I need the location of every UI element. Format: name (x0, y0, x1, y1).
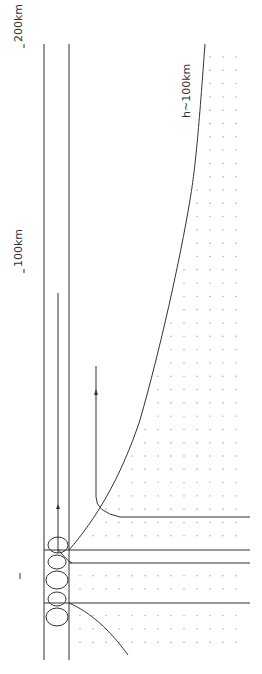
grid-dot (170, 429, 171, 430)
grid-dot (222, 509, 223, 510)
grid-dot (222, 522, 223, 523)
grid-dot (170, 415, 171, 416)
grid-dot (222, 282, 223, 283)
grid-dot (157, 588, 158, 589)
grid-dot (235, 163, 236, 164)
grid-dot (196, 282, 197, 283)
grid-dot (183, 509, 184, 510)
grid-dot (118, 522, 119, 523)
grid-dot (170, 615, 171, 616)
grid-dot (235, 336, 236, 337)
grid-dot (170, 535, 171, 536)
grid-dot (196, 362, 197, 363)
grid-dot (131, 482, 132, 483)
ellipse-4 (48, 592, 66, 606)
main-curve (69, 44, 205, 550)
grid-dot (131, 509, 132, 510)
grid-dot (157, 575, 158, 576)
grid-dot (209, 442, 210, 443)
scale-200km: 200km (12, 4, 25, 48)
grid-dot (196, 628, 197, 629)
grid-dot (196, 535, 197, 536)
grid-dot (105, 535, 106, 536)
grid-dot (131, 575, 132, 576)
grid-dot (144, 588, 145, 589)
grid-dot (209, 535, 210, 536)
grid-dot (183, 482, 184, 483)
grid-dot (170, 362, 171, 363)
grid-dot (196, 469, 197, 470)
grid-dot (209, 615, 210, 616)
grid-dot (209, 509, 210, 510)
grid-dot (209, 429, 210, 430)
grid-dot (144, 575, 145, 576)
grid-dot (157, 482, 158, 483)
grid-dot (222, 628, 223, 629)
grid-dot (79, 628, 80, 629)
grid-dot (222, 149, 223, 150)
grid-dot (235, 149, 236, 150)
grid-dot (222, 176, 223, 177)
grid-dot (235, 349, 236, 350)
grid-dot (235, 588, 236, 589)
grid-dot (183, 415, 184, 416)
grid-dot (209, 56, 210, 57)
grid-dot (118, 495, 119, 496)
grid-dot (235, 203, 236, 204)
grid-dot (105, 642, 106, 643)
grid-dot (209, 588, 210, 589)
grid-dot (144, 522, 145, 523)
grid-dot (235, 495, 236, 496)
grid-dot (209, 176, 210, 177)
grid-dot (235, 535, 236, 536)
grid-dot (235, 469, 236, 470)
grid-dot (196, 509, 197, 510)
hook-curve (96, 366, 250, 517)
grid-dot (183, 522, 184, 523)
grid-dot (105, 615, 106, 616)
grid-dot (222, 642, 223, 643)
grid-dot (222, 389, 223, 390)
grid-dot (196, 415, 197, 416)
grid-dot (183, 376, 184, 377)
grid-dot (222, 575, 223, 576)
grid-dot (170, 482, 171, 483)
grid-dot (170, 509, 171, 510)
grid-dot (183, 296, 184, 297)
grid-dot (235, 136, 236, 137)
grid-dot (222, 322, 223, 323)
grid-dot (131, 455, 132, 456)
grid-dot (183, 269, 184, 270)
grid-dot (157, 469, 158, 470)
grid-dot (235, 309, 236, 310)
grid-dot (235, 575, 236, 576)
grid-dot (157, 642, 158, 643)
grid-dot (222, 163, 223, 164)
grid-dot (222, 83, 223, 84)
grid-dot (144, 642, 145, 643)
ellipse-3 (46, 571, 68, 589)
grid-dot (209, 309, 210, 310)
grid-dot (131, 522, 132, 523)
grid-dot (222, 469, 223, 470)
grid-dot (196, 615, 197, 616)
grid-dot (196, 256, 197, 257)
grid-dot (157, 535, 158, 536)
grid-dot (196, 269, 197, 270)
grid-dot (157, 628, 158, 629)
grid-dot (209, 376, 210, 377)
grid-dot (235, 269, 236, 270)
grid-dot (209, 110, 210, 111)
grid-dot (144, 469, 145, 470)
scale-label-100km: 100km (12, 229, 25, 267)
grid-dot (222, 216, 223, 217)
grid-dot (196, 575, 197, 576)
grid-dot (92, 575, 93, 576)
grid-dot (170, 322, 171, 323)
grid-dot (131, 535, 132, 536)
grid-dot (118, 575, 119, 576)
grid-dot (196, 336, 197, 337)
grid-dot (235, 189, 236, 190)
grid-dot (209, 163, 210, 164)
grid-dot (235, 455, 236, 456)
